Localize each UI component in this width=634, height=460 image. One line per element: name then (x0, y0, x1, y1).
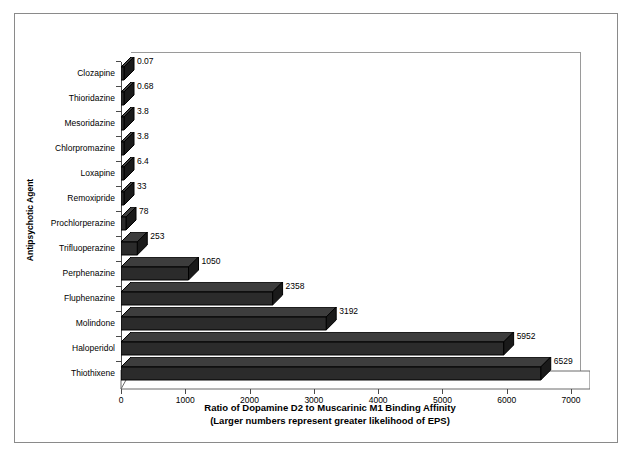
bar-value-label: 253 (150, 231, 164, 241)
bar-prochlorperazine (121, 207, 140, 234)
bar-value-label: 2358 (286, 281, 305, 291)
y-axis-category-label: Remoxipride (0, 193, 115, 203)
y-axis-category-label: Thioridazine (0, 93, 115, 103)
x-axis-tick (314, 389, 315, 394)
y-axis-tick (116, 236, 121, 237)
y-axis-tick (116, 186, 121, 187)
bar-perphenazine (121, 257, 203, 284)
y-axis-tick (116, 211, 121, 212)
y-axis-tick (116, 136, 121, 137)
x-axis-tick (507, 389, 508, 394)
y-axis-category-label: Thiothixene (0, 368, 115, 378)
x-axis-tick (378, 389, 379, 394)
y-axis-category-label: Fluphenazine (0, 293, 115, 303)
y-axis-tick (116, 336, 121, 337)
x-axis-tick-label: 4000 (358, 395, 398, 405)
bar-haloperidol (121, 332, 518, 359)
y-axis-category-label: Trifluoperazine (0, 243, 115, 253)
y-axis-category-label: Mesoridazine (0, 118, 115, 128)
x-axis-tick-label: 2000 (230, 395, 270, 405)
x-axis-tick-label: 0 (101, 395, 141, 405)
bar-mesoridazine (121, 107, 138, 134)
bar-molindone (121, 307, 340, 334)
y-axis-tick (116, 111, 121, 112)
bar-value-label: 6.4 (137, 156, 149, 166)
bar-value-label: 1050 (202, 256, 221, 266)
y-axis-category-label: Perphenazine (0, 268, 115, 278)
bar-value-label: 3192 (339, 306, 358, 316)
y-axis-category-label: Clozapine (0, 68, 115, 78)
y-axis-category-label: Loxapine (0, 168, 115, 178)
x-axis-tick-label: 7000 (551, 395, 591, 405)
bar-clozapine (121, 57, 138, 84)
x-axis-tick-label: 3000 (294, 395, 334, 405)
x-axis-tick-label: 6000 (487, 395, 527, 405)
y-axis-tick (116, 86, 121, 87)
bar-remoxipride (121, 182, 138, 209)
y-axis-tick (116, 261, 121, 262)
y-axis-category-label: Chlorpromazine (0, 143, 115, 153)
bar-loxapine (121, 157, 138, 184)
bar-trifluoperazine (121, 232, 151, 259)
x-axis-tick (121, 389, 122, 394)
bar-value-label: 6529 (554, 356, 573, 366)
y-axis-category-label: Molindone (0, 318, 115, 328)
bar-value-label: 3.8 (137, 106, 149, 116)
y-axis-category-label: Prochlorperazine (0, 218, 115, 228)
bar-value-label: 78 (139, 206, 148, 216)
bar-thioridazine (121, 82, 138, 109)
bar-value-label: 0.07 (137, 56, 154, 66)
y-axis-category-label: Haloperidol (0, 343, 115, 353)
bar-chlorpromazine (121, 132, 138, 159)
x-axis-tick-label: 5000 (422, 395, 462, 405)
y-axis-tick (116, 361, 121, 362)
x-axis-title-line2: (Larger numbers represent greater likeli… (80, 414, 580, 427)
bar-value-label: 5952 (517, 331, 536, 341)
y-axis-tick (116, 311, 121, 312)
y-axis-tick (116, 61, 121, 62)
x-axis-tick (571, 389, 572, 394)
bar-value-label: 33 (137, 181, 146, 191)
x-axis-tick (250, 389, 251, 394)
bar-fluphenazine (121, 282, 287, 309)
x-axis-tick (442, 389, 443, 394)
x-axis-tick (185, 389, 186, 394)
x-axis-tick-label: 1000 (165, 395, 205, 405)
y-axis-tick (116, 161, 121, 162)
bar-chart: 0.070.683.83.86.433782531050235831925952… (0, 0, 634, 460)
bar-value-label: 3.8 (137, 131, 149, 141)
bar-value-label: 0.68 (137, 81, 154, 91)
y-axis-tick (116, 286, 121, 287)
bar-thiothixene (121, 357, 555, 384)
